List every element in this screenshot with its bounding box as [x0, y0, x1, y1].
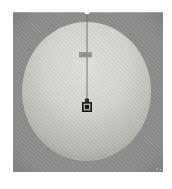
bob-core — [85, 105, 88, 108]
pivot-dot — [84, 9, 90, 15]
page — [0, 0, 172, 189]
string-marker-smudge — [81, 54, 90, 55]
string-marker — [80, 53, 92, 58]
vignette-overlay — [13, 12, 163, 172]
bob-knob — [85, 99, 89, 103]
viewport-canvas[interactable] — [0, 0, 172, 189]
bob[interactable] — [82, 102, 92, 112]
